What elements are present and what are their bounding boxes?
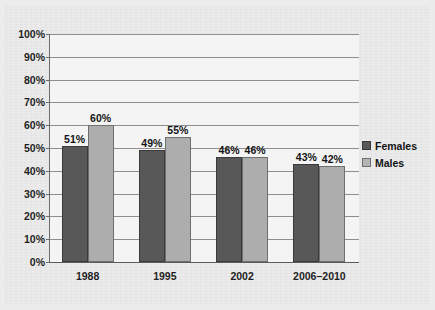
x-axis-tick-label: 1995 xyxy=(153,270,176,282)
y-axis-tick-label: 40% xyxy=(24,165,45,177)
light-gray-swatch xyxy=(362,158,371,167)
legend-item-label: Males xyxy=(375,157,404,169)
y-axis-tick-mark xyxy=(46,262,50,263)
dark-gray-swatch xyxy=(362,141,371,150)
bar-value-label: 42% xyxy=(322,153,343,165)
bar-males-1988: 60% xyxy=(88,125,114,262)
y-axis-tick-label: 100% xyxy=(18,28,45,40)
y-axis-tick-label: 0% xyxy=(30,256,45,268)
legend-item-label: Females xyxy=(375,140,417,152)
y-axis-tick-label: 80% xyxy=(24,74,45,86)
y-axis-tick-label: 10% xyxy=(24,233,45,245)
x-axis-tick-label: 1988 xyxy=(76,270,99,282)
legend-item-females: Females xyxy=(362,138,417,153)
axis-baseline xyxy=(50,262,359,263)
bar-group: 51%60%1988 xyxy=(62,34,114,262)
chart-legend: FemalesMales xyxy=(362,138,417,172)
y-axis-tick-label: 70% xyxy=(24,96,45,108)
bar-value-label: 43% xyxy=(296,151,317,163)
bar-females-2002: 46% xyxy=(216,157,242,262)
y-axis-tick-label: 60% xyxy=(24,119,45,131)
x-axis-tick-label: 2002 xyxy=(230,270,253,282)
y-axis-tick-label: 50% xyxy=(24,142,45,154)
bar-group: 49%55%1995 xyxy=(139,34,191,262)
bar-females-2006-2010: 43% xyxy=(293,164,319,262)
y-axis-tick-label: 90% xyxy=(24,51,45,63)
bar-value-label: 51% xyxy=(64,133,85,145)
bar-value-label: 46% xyxy=(245,144,266,156)
legend-item-males: Males xyxy=(362,155,417,170)
bar-chart-figure: 100%90%80%70%60%50%40%30%20%10%0% 51%60%… xyxy=(0,0,435,310)
bar-value-label: 60% xyxy=(90,112,111,124)
bar-females-1988: 51% xyxy=(62,146,88,262)
bar-group: 43%42%2006–2010 xyxy=(293,34,345,262)
bar-value-label: 49% xyxy=(141,137,162,149)
x-axis-tick-label: 2006–2010 xyxy=(293,270,346,282)
y-axis-tick-label: 30% xyxy=(24,188,45,200)
bars-layer: 51%60%198849%55%199546%46%200243%42%2006… xyxy=(49,34,358,262)
bar-value-label: 55% xyxy=(167,124,188,136)
y-axis-tick-label: 20% xyxy=(24,210,45,222)
bar-males-1995: 55% xyxy=(165,137,191,262)
bar-group: 46%46%2002 xyxy=(216,34,268,262)
bar-females-1995: 49% xyxy=(139,150,165,262)
bar-value-label: 46% xyxy=(219,144,240,156)
bar-males-2002: 46% xyxy=(242,157,268,262)
bar-males-2006-2010: 42% xyxy=(319,166,345,262)
